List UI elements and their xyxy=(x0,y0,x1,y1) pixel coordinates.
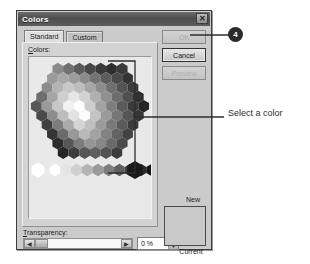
color-palette[interactable] xyxy=(28,56,152,219)
white-swatch[interactable] xyxy=(32,163,45,178)
callout-badge-4: 4 xyxy=(228,27,243,42)
tab-custom-label: Custom xyxy=(72,34,96,41)
gray-ramp-swatch[interactable] xyxy=(103,164,114,176)
standard-tab-page: Colors: xyxy=(22,42,158,227)
gray-ramp-swatch[interactable] xyxy=(60,164,71,176)
gray-ramp-swatch[interactable] xyxy=(82,164,93,176)
gray-ramp-swatch[interactable] xyxy=(71,164,82,176)
new-color-label: New xyxy=(173,196,213,203)
transparency-slider[interactable]: ◀ ▶ xyxy=(23,238,133,249)
close-icon[interactable]: ✕ xyxy=(196,13,208,24)
slider-track[interactable] xyxy=(35,239,121,248)
callout-select-a-color: Select a color xyxy=(228,108,283,118)
cancel-button[interactable]: Cancel xyxy=(162,48,206,62)
gray-ramp-swatch[interactable] xyxy=(93,164,104,176)
selected-color-swatch[interactable] xyxy=(127,161,143,179)
ok-button[interactable]: OK xyxy=(162,30,206,44)
gray-ramp-swatch[interactable] xyxy=(50,164,61,176)
dialog-title: Colors xyxy=(22,15,49,24)
slider-left-arrow-icon[interactable]: ◀ xyxy=(24,239,35,248)
slider-right-arrow-icon[interactable]: ▶ xyxy=(121,239,132,248)
colors-label: Colors: xyxy=(28,46,50,53)
slider-thumb[interactable] xyxy=(35,239,48,248)
tab-standard-label: Standard xyxy=(30,33,58,40)
gray-ramp-swatch[interactable] xyxy=(146,164,151,176)
honeycomb-swatches[interactable] xyxy=(29,57,151,218)
color-preview-box xyxy=(164,206,206,246)
preview-button[interactable]: Preview xyxy=(162,66,206,80)
dialog-titlebar[interactable]: Colors ✕ xyxy=(18,12,210,26)
transparency-label: Transparency: xyxy=(23,229,68,236)
gray-ramp-swatch[interactable] xyxy=(114,164,125,176)
colors-dialog: Colors ✕ Standard Custom Colors: Transpa… xyxy=(16,10,212,250)
current-color-label: Current xyxy=(170,248,212,255)
dialog-client-area: Standard Custom Colors: Transparency: ◀ … xyxy=(18,26,210,248)
